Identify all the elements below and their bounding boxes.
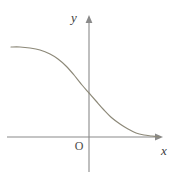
y-axis-label: y bbox=[69, 10, 77, 25]
origin-label: O bbox=[75, 139, 84, 153]
sigmoid-curve bbox=[11, 47, 160, 137]
y-axis-arrowhead bbox=[86, 15, 93, 23]
figure-canvas: y x O bbox=[0, 0, 174, 178]
coordinate-plot: y x O bbox=[0, 0, 174, 178]
x-axis-label: x bbox=[160, 143, 167, 158]
